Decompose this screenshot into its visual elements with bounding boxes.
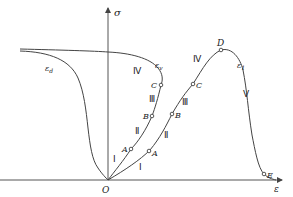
axial-label-c: C — [196, 81, 202, 90]
axial-stage-2: Ⅱ — [164, 130, 168, 140]
lateral-strain-curve — [20, 51, 108, 180]
x-axis-label: ε — [274, 184, 279, 194]
axial-point-b — [170, 112, 174, 116]
axial-label-b: B — [174, 111, 181, 120]
volumetric-stage-1: Ⅰ — [113, 154, 116, 164]
volumetric-point-b — [150, 114, 154, 118]
volumetric-label-a: A — [121, 145, 128, 154]
volumetric-label-b: B — [142, 112, 149, 121]
volumetric-stage-3: Ⅲ — [149, 94, 155, 104]
svg-text:εd: εd — [45, 64, 53, 74]
volumetric-point-c — [159, 83, 163, 87]
axial-point-d — [219, 48, 223, 52]
axial-stage-4: Ⅳ — [193, 54, 202, 64]
axial-stage-5: Ⅴ — [243, 89, 250, 99]
axial-stage-3: Ⅲ — [182, 97, 188, 107]
volumetric-curve-label: εv — [155, 61, 163, 71]
axial-point-c — [191, 82, 195, 86]
volumetric-label-c: C — [151, 81, 157, 90]
volumetric-point-a — [129, 147, 133, 151]
axial-stage-1: Ⅰ — [139, 162, 142, 172]
axial-label-d: D — [216, 38, 224, 48]
axial-point-a — [147, 149, 151, 153]
axial-curve-label: ε1 — [237, 61, 245, 71]
volumetric-stage-4: Ⅳ — [133, 66, 142, 76]
origin-label: O — [102, 185, 110, 195]
lateral-curve-label: εd — [45, 64, 53, 74]
axial-label-e: E — [266, 171, 273, 180]
axial-label-a: A — [151, 149, 158, 158]
y-axis-label: σ — [114, 7, 122, 18]
volumetric-stage-2: Ⅱ — [135, 126, 139, 136]
svg-text:εv: εv — [155, 61, 163, 71]
stress-strain-diagram: σ ε O A B C A B C D E Ⅰ Ⅱ Ⅲ Ⅳ Ⅰ Ⅱ Ⅲ Ⅳ Ⅴ … — [0, 0, 293, 197]
svg-text:ε1: ε1 — [237, 61, 245, 71]
axial-point-e — [262, 172, 266, 176]
